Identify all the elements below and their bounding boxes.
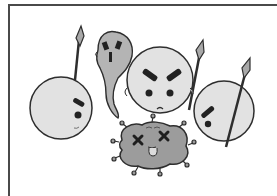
virus: [111, 114, 196, 176]
center-cell: [125, 40, 204, 113]
spearhead-icon: [242, 58, 250, 78]
tongue: [149, 148, 157, 156]
cell-body: [30, 77, 92, 139]
spearhead-icon: [76, 26, 84, 46]
spearhead-icon: [196, 40, 204, 60]
spear-shaft: [75, 40, 79, 80]
right-eye: [167, 90, 174, 97]
illustration-svg: [0, 0, 277, 196]
left-eye: [146, 90, 153, 97]
left-cell: [30, 26, 92, 139]
cell-body: [194, 81, 254, 141]
ghost-mouth: [109, 52, 112, 62]
virus-body: [120, 122, 188, 169]
right-cell: [194, 58, 254, 147]
illustration-scene: [0, 0, 277, 196]
eye: [205, 121, 211, 127]
eye: [75, 112, 82, 119]
cell-body: [127, 47, 193, 113]
